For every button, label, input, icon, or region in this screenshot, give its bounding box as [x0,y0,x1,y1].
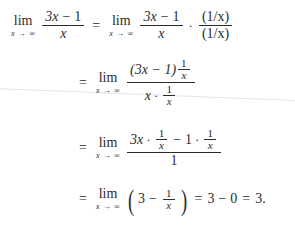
paren-close: ) [180,189,186,210]
small-fraction-denominator: x [163,200,174,211]
rhs-num-b: 1 [173,10,180,24]
equals-sign-5: = [195,192,203,206]
final-result: 3 [255,192,262,206]
lim-variable: x [96,202,100,211]
lim-subscript: x→∞ [109,30,133,38]
lim-label: lim [14,14,33,28]
limit-operator-4: lim x→∞ [96,136,120,160]
lim-target: ∞ [127,29,133,38]
limit-operator-3: lim x→∞ [96,71,120,95]
line3-term1-coeff: 3x [130,133,143,147]
lim-variable: x [96,151,100,160]
line3-term2-fraction: 1 x [204,128,216,151]
line3-denominator: 1 [168,153,181,168]
fraction-multiplier: (1/x) (1/x) [199,10,232,41]
minus-sign: − [173,133,181,147]
lim-target: ∞ [114,151,120,160]
limit-operator-5: lim x→∞ [96,187,120,211]
multiplication-dot: · [189,19,193,32]
fraction-rhs: 3x − 1 x [140,10,182,41]
line2-den-left: x [145,89,151,103]
multiplication-dot: · [146,133,150,146]
limit-operator-1: lim x→∞ [11,14,35,38]
lim-target: ∞ [29,29,35,38]
fraction-line2: (3x − 1) 1 x x · 1 x [127,58,195,107]
line3-numerator: 3x · 1 x − 1 · 1 x [127,128,221,152]
lim-label: lim [99,187,118,201]
small-fraction-numerator: 1 [156,128,168,139]
line3-term2-coeff: 1 [185,133,192,147]
arrow-icon: → [103,202,111,211]
lim-label: lim [112,14,131,28]
rhs-den: x [158,27,164,41]
lim-target: ∞ [114,202,120,211]
small-fraction-denominator: x [178,70,189,81]
minus-sign: − [161,10,169,24]
lim-variable: x [96,86,100,95]
equation-line-3: = lim x→∞ 3x · 1 x − 1 · 1 x [74,128,224,168]
equals-sign-2: = [79,76,87,90]
minus-sign: − [62,10,70,24]
fraction-lhs: 3x − 1 x [42,10,84,41]
fraction-rhs-numerator: 3x − 1 [140,10,182,25]
paren-open: ( [128,189,134,210]
eval-second-term: 0 [230,192,237,206]
minus-sign: − [218,192,226,206]
equals-sign-6: = [242,192,250,206]
multiplier-numerator: (1/x) [199,10,232,25]
multiplier-denominator: (1/x) [199,26,232,41]
equals-sign-3: = [79,141,87,155]
limit-operator-2: lim x→∞ [109,14,133,38]
lim-variable: x [109,29,113,38]
minus-sign: − [149,192,157,206]
small-fraction-numerator: 1 [178,58,190,69]
lim-subscript: x→∞ [96,87,120,95]
equation-line-4: = lim x→∞ ( 3 − 1 x ) = 3 − 0 = 3 . [74,187,266,211]
equals-sign-1: = [92,19,100,33]
equation-line-1: lim x→∞ 3x − 1 x = lim x→∞ 3x − 1 [7,10,235,41]
lhs-den: x [60,27,66,41]
lim-variable: x [11,29,15,38]
fraction-lhs-denominator: x [57,26,69,41]
lim-subscript: x→∞ [96,152,120,160]
line2-den-small-fraction: 1 x [163,84,175,107]
line4-leading-term: 3 [138,192,145,206]
small-fraction-denominator: x [164,96,175,107]
small-fraction-numerator: 1 [204,128,216,139]
equals-sign-4: = [79,192,87,206]
line4-fraction: 1 x [163,188,175,211]
small-fraction-denominator: x [205,140,216,151]
rhs-num-a: 3x [143,10,156,24]
small-fraction-numerator: 1 [163,188,175,199]
arrow-icon: → [116,29,124,38]
line2-num-group: (3x − 1) [130,63,176,77]
fraction-rhs-denominator: x [155,26,167,41]
arrow-icon: → [18,29,26,38]
arrow-icon: → [103,151,111,160]
fraction-line3: 3x · 1 x − 1 · 1 x 1 [127,128,221,168]
small-fraction-denominator: x [156,140,167,151]
lim-label: lim [99,136,118,150]
arrow-icon: → [103,86,111,95]
fraction-lhs-numerator: 3x − 1 [42,10,84,25]
equation-line-2: = lim x→∞ (3x − 1) 1 x x · 1 [74,58,198,107]
small-fraction-numerator: 1 [163,84,175,95]
line2-denominator: x · 1 x [142,83,180,107]
line3-term1-fraction: 1 x [156,128,168,151]
lim-subscript: x→∞ [96,203,120,211]
lim-subscript: x→∞ [11,30,35,38]
lhs-num-b: 1 [74,10,81,24]
multiplication-dot: · [195,133,199,146]
multiplication-dot: · [154,89,158,102]
line2-numerator: (3x − 1) 1 x [127,58,195,82]
eval-first-term: 3 [207,192,214,206]
lim-label: lim [99,71,118,85]
lhs-num-a: 3x [45,10,58,24]
lim-target: ∞ [114,86,120,95]
end-period: . [262,192,266,206]
line2-num-small-fraction: 1 x [178,58,190,81]
